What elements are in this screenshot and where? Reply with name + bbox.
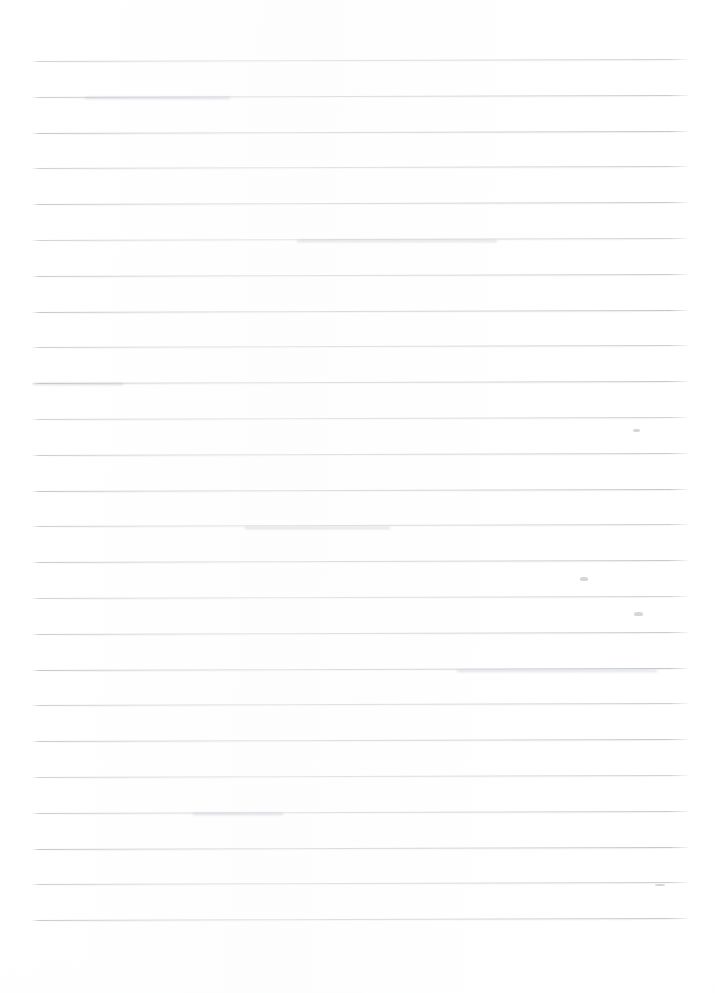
ruled-lines-layer — [0, 0, 715, 993]
rule-line — [32, 596, 688, 599]
rule-line — [32, 632, 688, 635]
rule-line — [32, 95, 688, 98]
rule-line — [32, 417, 688, 420]
rule-line — [32, 489, 688, 492]
rule-line — [32, 238, 688, 241]
scanned-page — [0, 0, 715, 993]
rule-line — [32, 524, 688, 527]
rule-line — [32, 59, 688, 62]
rule-line — [32, 202, 688, 205]
rule-line — [32, 847, 688, 850]
rule-line — [32, 453, 688, 456]
rule-line — [32, 166, 688, 169]
rule-line — [32, 274, 688, 277]
rule-line — [32, 131, 688, 134]
rule-line — [32, 918, 688, 921]
rule-line — [32, 560, 688, 563]
rule-line — [32, 345, 688, 348]
rule-line — [32, 882, 688, 885]
rule-line — [32, 310, 688, 313]
rule-line — [32, 811, 688, 814]
rule-line — [32, 703, 688, 706]
rule-line — [32, 668, 688, 671]
rule-line — [32, 381, 688, 384]
rule-line — [32, 739, 688, 742]
rule-line — [32, 775, 688, 778]
